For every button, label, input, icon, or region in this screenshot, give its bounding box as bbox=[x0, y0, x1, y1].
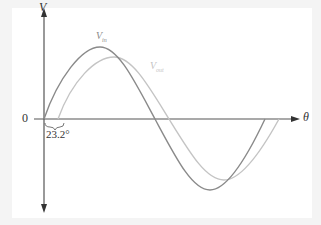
y-axis-label: V bbox=[39, 0, 46, 15]
phase-shift-label: 23.2° bbox=[46, 128, 70, 140]
x-axis-arrow-icon bbox=[291, 116, 300, 122]
origin-label: 0 bbox=[22, 111, 28, 126]
vout-label: Vout bbox=[150, 60, 164, 73]
phase-diagram bbox=[0, 0, 321, 225]
x-axis-label: θ bbox=[303, 110, 309, 125]
y-axis-down-arrow-icon bbox=[41, 204, 47, 213]
vin-label: Vin bbox=[96, 30, 107, 43]
